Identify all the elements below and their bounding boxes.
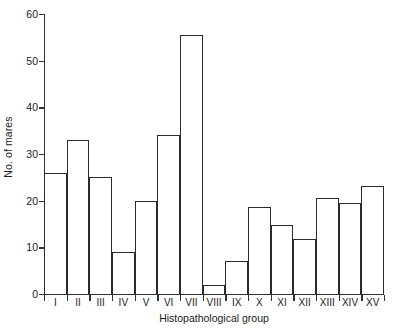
y-axis-title: No. of mares [0, 0, 16, 294]
x-tick-label-X: X [256, 296, 263, 310]
y-tick-label: 30 [17, 149, 38, 160]
plot-area [44, 14, 384, 294]
x-tick-label-IV: IV [119, 296, 128, 310]
bar-VIII [203, 285, 226, 294]
bar-X [248, 207, 271, 294]
y-axis-title-text: No. of mares [2, 116, 14, 177]
y-tick-mark [39, 61, 44, 62]
bar-IX [225, 261, 248, 294]
bar-II [67, 140, 90, 294]
x-tick-label-II: II [75, 296, 81, 310]
y-axis-tick-labels: 0102030405060 [17, 0, 38, 334]
x-axis-tick-labels: IIIIIIIVVVIVIIVIIIIXXXIXIIXIIIXIVXV [44, 296, 384, 312]
bar-III [89, 177, 112, 294]
x-tick-label-IX: IX [232, 296, 241, 310]
x-tick-label-XII: XII [299, 296, 311, 310]
x-tick-label-I: I [54, 296, 57, 310]
x-tick-label-V: V [143, 296, 150, 310]
x-tick-label-XV: XV [366, 296, 379, 310]
x-tick-label-XIII: XIII [320, 296, 335, 310]
x-tick-label-VII: VII [185, 296, 197, 310]
bar-IV [112, 252, 135, 294]
x-tick-mark [384, 295, 385, 301]
bar-XV [361, 186, 384, 294]
bar-XI [271, 225, 294, 294]
x-tick-label-XI: XI [277, 296, 286, 310]
y-tick-label: 60 [17, 9, 38, 20]
bar-VI [157, 135, 180, 294]
bar-chart-figure: No. of mares 0102030405060 IIIIIIIVVVIVI… [0, 0, 399, 334]
bar-I [44, 173, 67, 294]
y-tick-label: 50 [17, 55, 38, 66]
bar-VII [180, 35, 203, 294]
x-axis-title: Histopathological group [44, 312, 384, 324]
y-tick-label: 40 [17, 102, 38, 113]
y-tick-label: 10 [17, 242, 38, 253]
x-tick-label-VI: VI [164, 296, 173, 310]
bar-XIII [316, 198, 339, 294]
y-tick-mark [39, 107, 44, 108]
x-tick-label-III: III [96, 296, 104, 310]
bar-XII [293, 239, 316, 294]
y-tick-mark [39, 14, 44, 15]
x-tick-label-VIII: VIII [206, 296, 221, 310]
y-tick-label: 20 [17, 195, 38, 206]
bar-V [135, 201, 158, 294]
x-tick-label-XIV: XIV [342, 296, 358, 310]
bar-XIV [339, 203, 362, 294]
y-tick-mark [39, 154, 44, 155]
y-tick-label: 0 [17, 289, 38, 300]
